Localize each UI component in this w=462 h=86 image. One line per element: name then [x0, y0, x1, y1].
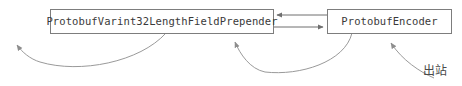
edge-encoder-to-prepender-curve: [235, 33, 352, 73]
annotation-outbound: 出站: [423, 65, 447, 77]
node-label-encoder: ProtobufEncoder: [341, 16, 437, 27]
node-protobuf-encoder[interactable]: ProtobufEncoder: [327, 9, 452, 34]
node-protobuf-varint32-length-field-prepender[interactable]: ProtobufVarint32LengthFieldPrepender: [50, 9, 274, 34]
diagram-canvas: ProtobufVarint32LengthFieldPrepender Pro…: [0, 0, 462, 86]
node-label-prepender: ProtobufVarint32LengthFieldPrepender: [46, 16, 277, 27]
edge-prepender-out-left: [17, 33, 166, 67]
